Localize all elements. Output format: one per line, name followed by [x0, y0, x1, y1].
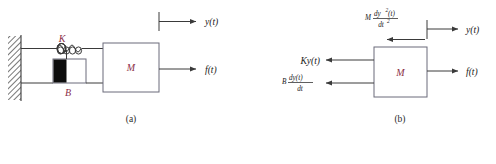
- inertia-numerator-arg: (t): [388, 10, 395, 18]
- inertia-numerator: dy: [374, 10, 382, 18]
- panel-a: K B M y(t) f(t): [8, 12, 218, 125]
- damping-force-label: B dy(t) dt: [282, 74, 313, 93]
- damping-constant-label: B: [65, 87, 71, 98]
- panel-b: M M dy 2 (t) dt 2 y(t): [282, 7, 479, 125]
- displacement-indicator-b: [427, 20, 458, 39]
- caption-a: (a): [126, 114, 137, 125]
- damping-numerator: dy(t): [289, 74, 303, 82]
- fixed-wall-icon: [8, 35, 21, 101]
- inertia-force-label: M dy 2 (t) dt 2: [364, 7, 398, 28]
- figure-container: K B M y(t) f(t): [0, 0, 496, 164]
- mass-label-a: M: [126, 62, 136, 73]
- force-label-a: f(t): [205, 65, 217, 76]
- damper-assembly: [21, 50, 103, 83]
- force-label-b: f(t): [466, 67, 478, 78]
- spring-coil-icon: [57, 45, 82, 54]
- displacement-label-a: y(t): [204, 17, 218, 28]
- inertia-denominator: dt: [378, 21, 385, 29]
- displacement-indicator-a: [159, 12, 196, 31]
- inertia-coefficient: M: [364, 14, 372, 22]
- inertia-denominator-sup: 2: [387, 18, 390, 24]
- spring-assembly: [21, 44, 103, 55]
- damping-coefficient: B: [282, 78, 287, 86]
- mass-label-b: M: [395, 67, 405, 78]
- spring-constant-label: K: [58, 33, 67, 44]
- displacement-label-b: y(t): [465, 25, 479, 36]
- caption-b: (b): [394, 114, 405, 125]
- damping-denominator: dt: [297, 85, 304, 93]
- spring-force-label: Ky(t): [299, 56, 320, 67]
- mechanical-system-figure: K B M y(t) f(t): [0, 0, 496, 164]
- dashpot-piston: [54, 60, 67, 83]
